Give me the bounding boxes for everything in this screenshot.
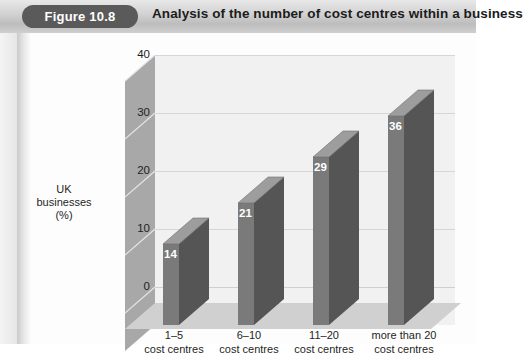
x-label-3-line1: 11–20: [288, 329, 360, 343]
x-label-4-line1: more than 20: [360, 329, 448, 343]
x-label-1-line1: 1–5: [138, 329, 210, 343]
bar-6-10-cost-centres[interactable]: 21: [238, 177, 294, 337]
x-axis-labels: 1–5 cost centres 6–10 cost centres 11–20…: [30, 329, 476, 357]
bar-value-3: 29: [314, 161, 354, 173]
bar-11-20-cost-centres[interactable]: 29: [313, 131, 369, 337]
bar-more-than-20-cost-centres[interactable]: 36: [388, 90, 444, 338]
bar-value-1: 14: [164, 248, 204, 260]
figure-number-badge: Figure 10.8: [22, 5, 138, 28]
bar-value-4: 36: [389, 120, 429, 132]
x-label-4-line2: cost centres: [360, 343, 448, 357]
bar-chart-3d: 40 30 20 10 0 UK businesses (%) 14: [30, 33, 476, 344]
bar-1-5-cost-centres[interactable]: 14: [163, 218, 219, 338]
x-label-4: more than 20 cost centres: [360, 329, 448, 356]
x-label-2-line2: cost centres: [213, 343, 285, 357]
figure-title: Analysis of the number of cost centres w…: [152, 6, 523, 21]
figure-body: 40 30 20 10 0 UK businesses (%) 14: [0, 33, 476, 344]
x-label-1: 1–5 cost centres: [138, 329, 210, 356]
figure-number-label: Figure 10.8: [45, 9, 116, 24]
x-label-3: 11–20 cost centres: [288, 329, 360, 356]
x-label-1-line2: cost centres: [138, 343, 210, 357]
bar-series: 14 21 29: [30, 33, 476, 344]
x-label-3-line2: cost centres: [288, 343, 360, 357]
figure-header-band: Figure 10.8 Analysis of the number of co…: [0, 0, 476, 33]
x-label-2: 6–10 cost centres: [213, 329, 285, 356]
x-label-2-line1: 6–10: [213, 329, 285, 343]
page-edge-shade: [0, 33, 17, 344]
page-gutter-strip: [17, 33, 30, 344]
bar-value-2: 21: [239, 207, 279, 219]
